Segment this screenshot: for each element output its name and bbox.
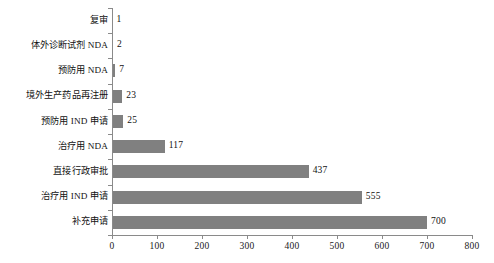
value-tick-label: 700 bbox=[407, 240, 447, 252]
bar-row: 437 bbox=[112, 159, 472, 184]
value-tick bbox=[157, 235, 158, 239]
bar-row: 23 bbox=[112, 84, 472, 109]
value-tick-label: 600 bbox=[362, 240, 402, 252]
category-label: 境外生产药品再注册 bbox=[0, 89, 108, 102]
bar bbox=[112, 115, 123, 128]
value-tick-label: 100 bbox=[137, 240, 177, 252]
bar-value-label: 2 bbox=[117, 37, 122, 51]
value-tick bbox=[112, 235, 113, 239]
value-tick-label: 300 bbox=[227, 240, 267, 252]
bar-value-label: 23 bbox=[126, 88, 136, 102]
value-tick-label: 400 bbox=[272, 240, 312, 252]
bar bbox=[112, 90, 122, 103]
category-label: 体外诊断试剂 NDA bbox=[0, 39, 108, 52]
value-tick-label: 500 bbox=[317, 240, 357, 252]
bar-value-label: 25 bbox=[127, 113, 137, 127]
category-label: 补充申请 bbox=[0, 215, 108, 228]
value-tick bbox=[382, 235, 383, 239]
bar bbox=[112, 140, 165, 153]
value-tick bbox=[427, 235, 428, 239]
bar-row: 555 bbox=[112, 185, 472, 210]
category-label: 治疗用 NDA bbox=[0, 140, 108, 153]
category-label: 复审 bbox=[0, 14, 108, 27]
bar-value-label: 555 bbox=[366, 189, 381, 203]
bar-row: 25 bbox=[112, 109, 472, 134]
bar-value-label: 700 bbox=[431, 214, 446, 228]
category-label: 治疗用 IND 申请 bbox=[0, 190, 108, 203]
category-label: 预防用 NDA bbox=[0, 64, 108, 77]
value-tick bbox=[472, 235, 473, 239]
value-tick-label: 800 bbox=[452, 240, 492, 252]
bar bbox=[112, 165, 309, 178]
category-label: 直接行政审批 bbox=[0, 165, 108, 178]
bar-row: 1 bbox=[112, 8, 472, 33]
bar-chart-figure: 1272325117437555700 复审体外诊断试剂 NDA预防用 NDA境… bbox=[0, 0, 494, 263]
category-label: 预防用 IND 申请 bbox=[0, 115, 108, 128]
value-tick bbox=[292, 235, 293, 239]
plot-area: 1272325117437555700 bbox=[112, 8, 472, 235]
category-axis-line bbox=[112, 8, 113, 235]
bar-value-label: 437 bbox=[313, 163, 328, 177]
bar-row: 7 bbox=[112, 58, 472, 83]
bar-value-label: 1 bbox=[116, 12, 121, 26]
value-tick bbox=[202, 235, 203, 239]
value-tick bbox=[337, 235, 338, 239]
bar-row: 700 bbox=[112, 210, 472, 235]
value-tick bbox=[247, 235, 248, 239]
value-tick-label: 0 bbox=[92, 240, 132, 252]
bar bbox=[112, 191, 362, 204]
bar-row: 117 bbox=[112, 134, 472, 159]
bar-value-label: 7 bbox=[119, 62, 124, 76]
bar-row: 2 bbox=[112, 33, 472, 58]
bar-value-label: 117 bbox=[169, 138, 184, 152]
value-tick-label: 200 bbox=[182, 240, 222, 252]
bar bbox=[112, 216, 427, 229]
